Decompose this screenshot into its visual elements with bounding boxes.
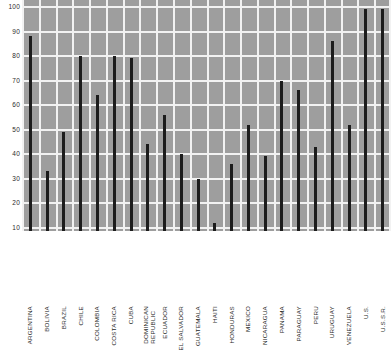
x-axis-tick-label: EL SALVADOR: [178, 306, 184, 351]
x-axis-tick-label: ECUADOR: [162, 306, 168, 339]
bar: [280, 81, 283, 232]
x-axis-tick-label: NICARAGUA: [262, 306, 268, 345]
x-axis-tick-label: DOMINICANREPUBLIC: [142, 306, 156, 344]
bar: [297, 90, 300, 231]
bar: [113, 56, 116, 231]
x-axis-tick-label: PERU: [313, 306, 319, 324]
bar: [331, 41, 334, 231]
bar: [79, 56, 82, 231]
bar: [247, 125, 250, 231]
bar-series: [22, 0, 391, 231]
y-axis-tick-label: 20: [0, 200, 20, 207]
y-axis-tick-label: 70: [0, 77, 20, 84]
x-axis-tick-label: BRAZIL: [61, 306, 67, 329]
x-axis-tick-label: URUGUAY: [329, 306, 335, 338]
bar: [96, 95, 99, 231]
x-axis-tick-label: HAITI: [212, 306, 218, 323]
bar: [180, 154, 183, 231]
plot-area: [22, 0, 391, 231]
bar: [230, 164, 233, 231]
x-axis-tick-label: COLOMBIA: [94, 306, 100, 341]
y-axis-tick-label: 40: [0, 151, 20, 158]
bar: [29, 36, 32, 231]
x-axis-labels: ARGENTINABOLIVIABRAZILCHILECOLOMBIACOSTA…: [22, 233, 391, 308]
y-axis-tick-label: 60: [0, 102, 20, 109]
bar: [146, 144, 149, 231]
bar: [381, 9, 384, 231]
x-axis-tick-label: VENEZUELA: [346, 306, 352, 345]
x-axis-tick-label: CHILE: [78, 306, 84, 325]
bar: [130, 58, 133, 231]
y-axis-tick-label: 80: [0, 53, 20, 60]
y-axis-tick-label: 10: [0, 224, 20, 231]
x-axis-tick-label: PANAMA: [279, 306, 285, 333]
bar: [314, 147, 317, 231]
x-axis-tick-label: BOLIVIA: [44, 306, 50, 332]
y-axis: 100908070605040302010: [0, 0, 22, 232]
x-axis-tick-label: MEXICO: [245, 306, 251, 332]
bar: [46, 171, 49, 231]
y-axis-tick-label: 50: [0, 126, 20, 133]
bar: [62, 132, 65, 231]
x-axis-tick-label: U.S.: [363, 306, 369, 319]
x-axis-tick-label: COSTA RICA: [111, 306, 117, 346]
bar: [264, 156, 267, 231]
x-axis-tick-label: CUBA: [128, 306, 134, 324]
bar: [197, 179, 200, 232]
bar: [364, 9, 367, 231]
x-axis-tick-label: ARGENTINA: [27, 306, 33, 344]
x-axis-tick-label: PARAGUAY: [296, 306, 302, 341]
x-axis-tick-label: U.S.S.R.: [380, 306, 386, 332]
bar: [348, 125, 351, 231]
x-axis-tick-label: HONDURAS: [229, 306, 235, 343]
y-axis-tick-label: 90: [0, 28, 20, 35]
y-axis-tick-label: 30: [0, 175, 20, 182]
bar: [163, 115, 166, 231]
bar: [213, 223, 216, 231]
y-axis-tick-label: 100: [0, 4, 20, 11]
x-axis-tick-label: GUATEMALA: [195, 306, 201, 346]
